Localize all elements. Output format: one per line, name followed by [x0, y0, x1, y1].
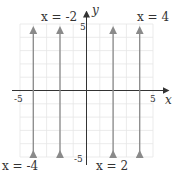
label-x-2: x = 2: [96, 159, 128, 173]
x-tick-max: 5: [150, 94, 156, 104]
x-axis-label: x: [165, 93, 172, 107]
y-tick-max: 5: [80, 22, 86, 32]
y-tick-min: -5: [74, 154, 83, 164]
label-x-neg2: x = -2: [41, 10, 77, 24]
y-axis-label: y: [91, 3, 99, 17]
x-tick-min: -5: [14, 94, 23, 104]
label-x-4: x = 4: [137, 10, 169, 24]
coordinate-plane: -5 5 5 -5 y x x = -2 x = 4 x = -4 x = 2: [0, 0, 174, 175]
label-x-neg4: x = -4: [2, 159, 39, 173]
